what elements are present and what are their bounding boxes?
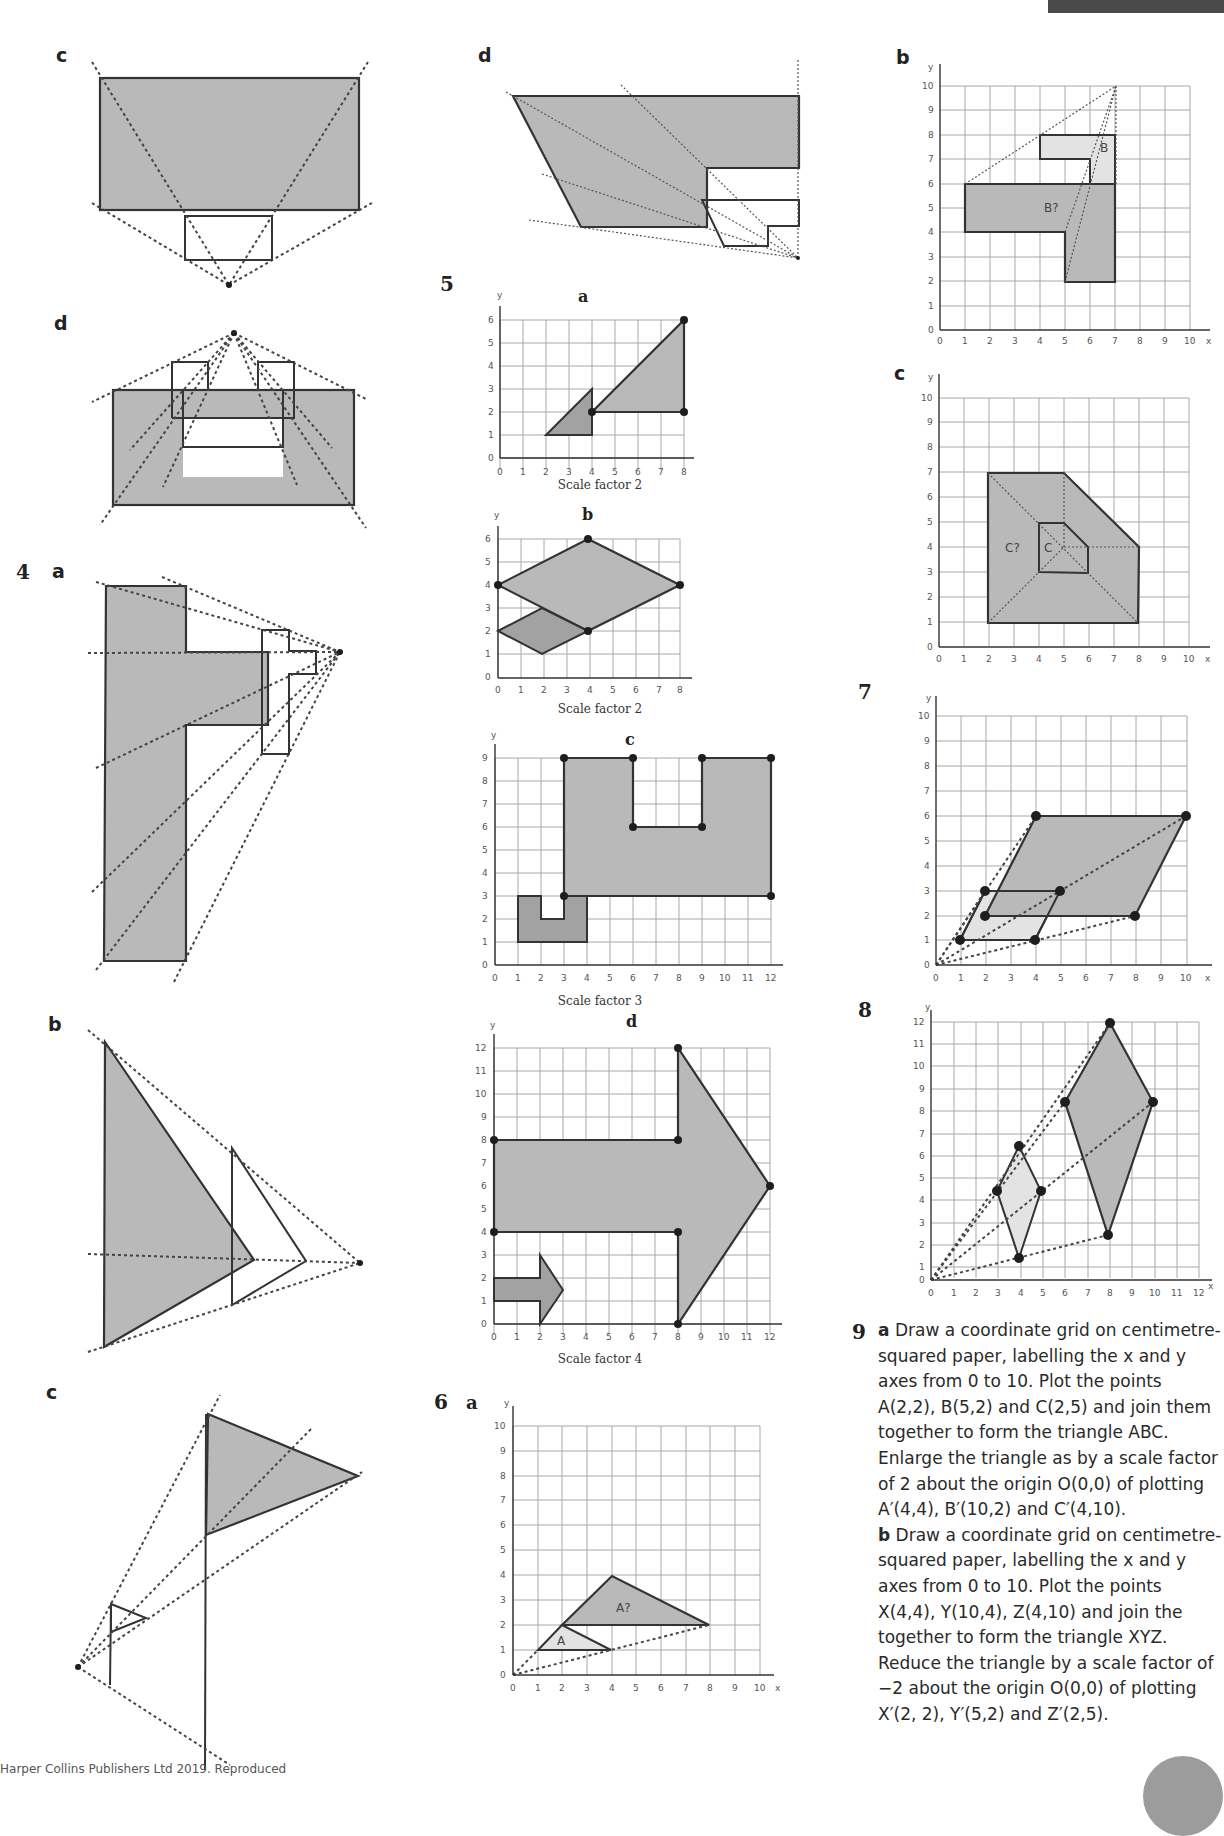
svg-text:0: 0 xyxy=(488,453,494,463)
svg-text:8: 8 xyxy=(919,1106,925,1116)
q5c-caption: Scale factor 3 xyxy=(500,994,700,1008)
svg-text:10: 10 xyxy=(1149,1288,1161,1298)
svg-text:11: 11 xyxy=(913,1039,924,1049)
svg-text:9: 9 xyxy=(698,1332,704,1342)
svg-text:2: 2 xyxy=(983,973,989,983)
svg-text:8: 8 xyxy=(481,1135,487,1145)
svg-text:4: 4 xyxy=(482,868,488,878)
svg-text:12: 12 xyxy=(765,973,776,983)
svg-text:1: 1 xyxy=(482,937,488,947)
svg-text:3: 3 xyxy=(1008,973,1014,983)
svg-text:6: 6 xyxy=(629,1332,635,1342)
svg-text:3: 3 xyxy=(924,886,930,896)
svg-text:y: y xyxy=(491,730,497,740)
chart-right-c: C C? y 109876543210 012345678910x xyxy=(820,340,1224,670)
svg-text:10: 10 xyxy=(913,1061,925,1071)
svg-text:5: 5 xyxy=(1058,973,1064,983)
svg-text:10: 10 xyxy=(921,393,933,403)
svg-text:5: 5 xyxy=(500,1545,506,1555)
label-A-image: A? xyxy=(616,1601,631,1615)
svg-text:5: 5 xyxy=(633,1683,639,1693)
svg-text:7: 7 xyxy=(1085,1288,1091,1298)
svg-text:0: 0 xyxy=(928,1288,934,1298)
svg-text:8: 8 xyxy=(676,973,682,983)
svg-text:10: 10 xyxy=(1180,973,1192,983)
svg-text:x: x xyxy=(1205,973,1211,983)
svg-text:5: 5 xyxy=(919,1173,925,1183)
svg-text:4: 4 xyxy=(1036,654,1042,664)
svg-text:7: 7 xyxy=(927,467,933,477)
svg-text:3: 3 xyxy=(485,603,491,613)
svg-text:2: 2 xyxy=(919,1240,925,1250)
svg-text:3: 3 xyxy=(488,384,494,394)
svg-text:6: 6 xyxy=(927,492,933,502)
svg-text:11: 11 xyxy=(1171,1288,1182,1298)
svg-text:6: 6 xyxy=(630,973,636,983)
question-9b: b Draw a coordinate grid on centimetre-s… xyxy=(878,1523,1224,1728)
chart-5a: y 6543210 012345678 xyxy=(440,270,700,500)
svg-text:9: 9 xyxy=(919,1084,925,1094)
label-B: B xyxy=(1100,141,1108,155)
svg-text:4: 4 xyxy=(928,227,934,237)
figure-4b xyxy=(0,990,400,1370)
svg-text:0: 0 xyxy=(481,1319,487,1329)
svg-text:y: y xyxy=(490,1020,496,1030)
svg-text:4: 4 xyxy=(927,542,933,552)
svg-text:1: 1 xyxy=(515,973,521,983)
q5a-caption: Scale factor 2 xyxy=(500,478,700,492)
svg-text:8: 8 xyxy=(928,130,934,140)
svg-text:8: 8 xyxy=(1136,654,1142,664)
svg-text:11: 11 xyxy=(741,1332,752,1342)
svg-text:5: 5 xyxy=(924,836,930,846)
svg-text:12: 12 xyxy=(764,1332,775,1342)
svg-text:1: 1 xyxy=(958,973,964,983)
svg-text:8: 8 xyxy=(1133,973,1139,983)
svg-text:9: 9 xyxy=(1129,1288,1135,1298)
svg-text:10: 10 xyxy=(918,711,930,721)
svg-text:5: 5 xyxy=(927,517,933,527)
svg-text:2: 2 xyxy=(485,626,491,636)
svg-text:1: 1 xyxy=(518,685,524,695)
svg-text:7: 7 xyxy=(652,1332,658,1342)
figure-c-top xyxy=(0,0,400,300)
chart-5b: y 6543210 012345678 xyxy=(440,500,700,730)
svg-text:7: 7 xyxy=(1111,654,1117,664)
figure-d-middle xyxy=(440,0,820,270)
svg-text:3: 3 xyxy=(927,567,933,577)
svg-text:6: 6 xyxy=(481,1181,487,1191)
svg-text:6: 6 xyxy=(919,1151,925,1161)
svg-text:0: 0 xyxy=(482,960,488,970)
svg-text:x: x xyxy=(1205,654,1211,664)
svg-text:6: 6 xyxy=(482,822,488,832)
svg-text:y: y xyxy=(926,693,932,703)
svg-text:1: 1 xyxy=(520,467,526,477)
question-9a-label: a xyxy=(878,1320,889,1340)
svg-text:0: 0 xyxy=(510,1683,516,1693)
footer-copyright: Harper Collins Publishers Ltd 2019. Repr… xyxy=(0,1762,286,1776)
label-C: C xyxy=(1044,541,1052,555)
svg-text:6: 6 xyxy=(658,1683,664,1693)
svg-text:y: y xyxy=(494,510,500,520)
svg-text:3: 3 xyxy=(919,1218,925,1228)
svg-text:7: 7 xyxy=(500,1495,506,1505)
svg-text:2: 2 xyxy=(488,407,494,417)
svg-text:9: 9 xyxy=(924,736,930,746)
svg-text:y: y xyxy=(504,1398,510,1408)
svg-text:6: 6 xyxy=(488,315,494,325)
svg-text:11: 11 xyxy=(475,1066,486,1076)
figure-4c xyxy=(0,1370,400,1776)
svg-text:1: 1 xyxy=(514,1332,520,1342)
svg-text:9: 9 xyxy=(500,1446,506,1456)
svg-text:4: 4 xyxy=(485,580,491,590)
svg-text:0: 0 xyxy=(497,467,503,477)
svg-text:1: 1 xyxy=(951,1288,957,1298)
svg-text:6: 6 xyxy=(928,179,934,189)
svg-text:7: 7 xyxy=(481,1158,487,1168)
svg-text:9: 9 xyxy=(928,105,934,115)
svg-text:10: 10 xyxy=(719,973,731,983)
q5d-caption: Scale factor 4 xyxy=(500,1352,700,1366)
svg-text:4: 4 xyxy=(583,1332,589,1342)
svg-text:10: 10 xyxy=(1183,654,1195,664)
svg-text:3: 3 xyxy=(1011,654,1017,664)
svg-text:9: 9 xyxy=(481,1112,487,1122)
